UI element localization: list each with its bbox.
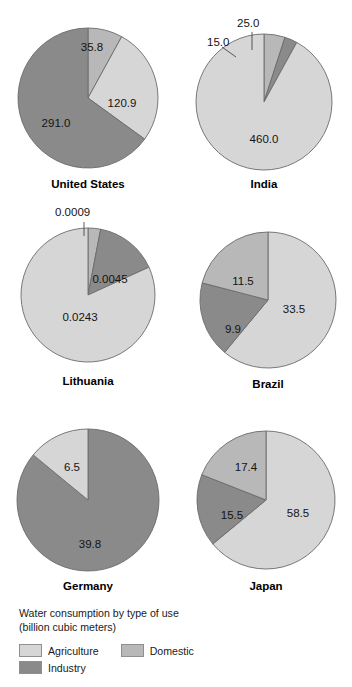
legend-entry-industry: Industry (19, 661, 86, 674)
legend-title: Water consumption by type of use (billio… (19, 606, 339, 634)
slice-value-domestic: 35.8 (81, 41, 103, 53)
slice-value-agriculture: 0.0243 (62, 311, 97, 323)
slice-value-agriculture: 58.5 (287, 507, 309, 519)
slice-value-industry: 0.0045 (92, 273, 127, 285)
country-label: Germany (63, 580, 113, 592)
pie-slice-agriculture (196, 34, 332, 170)
legend-title-line1: Water consumption by type of use (19, 606, 339, 620)
legend-swatch-domestic (121, 644, 144, 657)
pie-svg: 0.00450.02430.0009Lithuania (0, 200, 176, 400)
slice-value-agriculture: 460.0 (250, 133, 279, 145)
pie-svg: 35.8120.9291.0United States (0, 0, 176, 200)
pie-chart-japan: 58.515.517.4Japan (176, 400, 352, 600)
slice-value-agriculture: 120.9 (108, 97, 137, 109)
slice-value-agriculture: 6.5 (64, 461, 80, 473)
legend-label-agriculture: Agriculture (48, 645, 99, 657)
country-label: Brazil (252, 378, 283, 390)
slice-value-industry: 15.0 (207, 36, 229, 48)
country-label: Lithuania (62, 375, 114, 387)
pie-svg: 6.539.8Germany (0, 400, 176, 600)
legend-entry-domestic: Domestic (121, 644, 194, 657)
legend-label-industry: Industry (48, 662, 86, 674)
pie-svg: 33.59.911.5Brazil (176, 200, 352, 400)
legend-entry-agriculture: Agriculture (19, 644, 99, 657)
legend-title-line2: (billion cubic meters) (19, 620, 339, 634)
pie-svg: 58.515.517.4Japan (176, 400, 352, 600)
legend-row-1: Agriculture Domestic (19, 642, 319, 659)
legend-swatch-industry (19, 661, 42, 674)
legend-swatch-agriculture (19, 644, 42, 657)
legend-row-2: Industry (19, 659, 319, 676)
pie-chart-united-states: 35.8120.9291.0United States (0, 0, 176, 200)
slice-value-industry: 9.9 (225, 323, 241, 335)
slice-value-domestic: 0.0009 (55, 206, 90, 218)
slice-value-domestic: 11.5 (232, 275, 254, 287)
slice-value-domestic: 17.4 (235, 461, 258, 473)
pie-chart-grid: 35.8120.9291.0United States460.015.025.0… (0, 0, 352, 600)
chart-legend: Water consumption by type of use (billio… (19, 606, 339, 676)
slice-value-agriculture: 33.5 (283, 303, 305, 315)
pie-chart-india: 460.015.025.0India (176, 0, 352, 200)
country-label: India (251, 178, 278, 190)
country-label: United States (51, 178, 125, 190)
legend-items: Agriculture Domestic Industry (19, 642, 319, 676)
slice-value-industry: 15.5 (221, 509, 243, 521)
country-label: Japan (249, 580, 282, 592)
pie-chart-lithuania: 0.00450.02430.0009Lithuania (0, 200, 176, 400)
pie-chart-germany: 6.539.8Germany (0, 400, 176, 600)
slice-value-domestic: 25.0 (237, 17, 259, 29)
pie-chart-brazil: 33.59.911.5Brazil (176, 200, 352, 400)
pie-svg: 460.015.025.0India (176, 0, 352, 200)
water-consumption-pie-figure: 35.8120.9291.0United States460.015.025.0… (0, 0, 352, 687)
slice-value-industry: 291.0 (42, 117, 71, 129)
slice-value-industry: 39.8 (79, 538, 101, 550)
legend-label-domestic: Domestic (150, 645, 194, 657)
